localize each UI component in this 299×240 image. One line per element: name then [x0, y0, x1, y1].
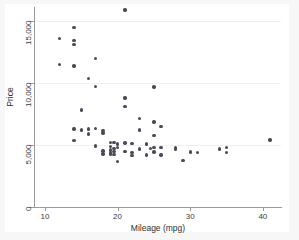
data-point	[130, 154, 133, 157]
data-point	[152, 146, 155, 149]
y-axis-tick-label: 10,000	[24, 83, 33, 107]
data-point	[138, 128, 141, 131]
data-point	[138, 147, 141, 150]
plot-area	[34, 7, 281, 207]
data-point	[80, 108, 83, 111]
data-point	[181, 159, 184, 162]
data-point	[72, 43, 75, 46]
data-point	[268, 138, 271, 141]
data-point	[138, 117, 141, 120]
data-point	[72, 64, 75, 67]
data-point	[123, 96, 126, 99]
y-axis-title: Price	[5, 67, 15, 127]
data-point	[72, 139, 75, 142]
data-point	[152, 120, 155, 123]
data-point	[72, 39, 75, 42]
data-point	[87, 77, 90, 80]
x-axis-tick-label: 30	[175, 212, 205, 221]
data-point	[94, 127, 97, 130]
data-point	[123, 105, 126, 108]
x-axis-line	[34, 207, 282, 208]
data-point	[101, 131, 104, 134]
scatter-plot-figure: Price Mileage (mpg) 05,00010,00015,00010…	[0, 0, 299, 240]
gridline-horizontal	[34, 83, 281, 84]
x-axis-tick	[45, 208, 46, 211]
data-point	[196, 151, 199, 154]
x-axis-title: Mileage (mpg)	[34, 223, 282, 233]
data-point	[123, 141, 126, 144]
y-axis-tick-label: 5,000	[24, 145, 33, 165]
x-axis-tick-label: 40	[248, 212, 278, 221]
x-axis-tick-label: 20	[103, 212, 133, 221]
x-axis-tick-label: 10	[30, 212, 60, 221]
data-point	[159, 153, 162, 156]
data-point	[152, 134, 155, 137]
data-point	[225, 146, 228, 149]
data-point	[123, 8, 126, 11]
x-axis-tick	[263, 208, 264, 211]
data-point	[72, 127, 75, 130]
data-point	[159, 146, 162, 149]
data-point	[58, 37, 61, 40]
data-point	[159, 125, 162, 128]
x-axis-tick	[118, 208, 119, 211]
data-point	[218, 147, 221, 150]
data-point	[145, 153, 148, 156]
data-point	[80, 128, 83, 131]
data-point	[58, 63, 61, 66]
data-point	[189, 150, 192, 153]
data-point	[87, 132, 90, 135]
data-point	[94, 57, 97, 60]
data-point	[94, 144, 97, 147]
data-point	[152, 85, 155, 88]
data-point	[116, 160, 119, 163]
y-axis-tick-label: 0	[24, 207, 33, 211]
data-point	[152, 150, 155, 153]
data-point	[112, 153, 115, 156]
data-point	[116, 146, 119, 149]
gridline-horizontal	[34, 21, 281, 22]
data-point	[123, 150, 126, 153]
gridline-horizontal	[34, 145, 281, 146]
y-axis-line	[34, 7, 35, 208]
data-point	[94, 85, 97, 88]
data-point	[174, 147, 177, 150]
data-point	[225, 151, 228, 154]
data-point	[72, 26, 75, 29]
data-point	[87, 127, 90, 130]
data-point	[101, 152, 104, 155]
x-axis-tick	[190, 208, 191, 211]
y-axis-tick-label: 15,000	[24, 21, 33, 45]
